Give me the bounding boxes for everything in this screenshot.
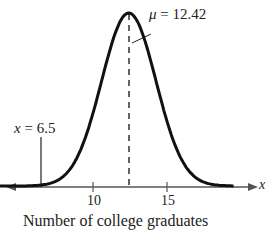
normal-curve: [0, 13, 234, 186]
axis-variable-label: x: [259, 177, 265, 193]
mu-value: = 12.42: [157, 6, 207, 22]
tick-label-15: 15: [161, 193, 175, 209]
mu-symbol: μ: [149, 6, 157, 22]
x-value-label: x = 6.5: [14, 120, 55, 137]
tick-label-10: 10: [87, 193, 101, 209]
axis-right-arrow-icon: [248, 183, 258, 191]
normal-curve-plot: [0, 0, 269, 238]
mu-leader-line: [132, 34, 151, 43]
x-axis-title: Number of college graduates: [23, 212, 208, 230]
x-symbol: x: [14, 120, 21, 136]
x-value: = 6.5: [21, 120, 56, 136]
mean-label: μ = 12.42: [149, 6, 206, 23]
